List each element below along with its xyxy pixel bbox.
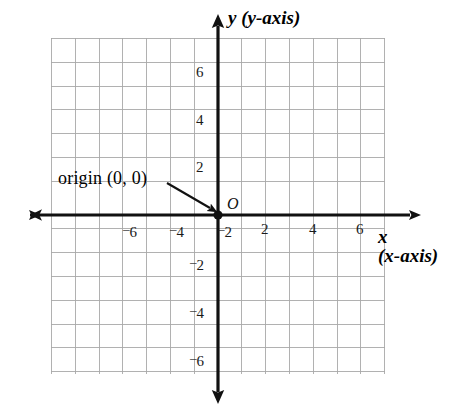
tick-value: 2 (197, 257, 205, 273)
coordinate-plane-figure: y (y-axis) x (x-axis) origin (0, 0) O –6… (0, 0, 452, 416)
origin-point-marker (213, 210, 222, 219)
x-axis-tick-xm2: –2 (218, 222, 232, 240)
y-axis (212, 14, 224, 404)
y-axis-tick-yp4: 4 (196, 113, 204, 128)
tick-value: 6 (356, 221, 364, 237)
y-axis-tick-yp6: 6 (196, 65, 204, 80)
tick-value: 6 (130, 224, 138, 240)
x-axis-tick-xm4: –4 (170, 222, 184, 240)
x-axis-symbol: x (378, 226, 388, 247)
y-axis-tick-ym6: –6 (190, 351, 204, 369)
y-axis-tick-yp2: 2 (196, 160, 204, 175)
x-axis-paren: (x-axis) (378, 246, 438, 266)
y-axis-tick-ym4: –4 (190, 303, 204, 321)
y-axis-label: y (y-axis) (228, 8, 300, 28)
tick-value: 6 (197, 353, 205, 369)
coordinate-plane-canvas (0, 0, 452, 416)
y-axis-tick-ym2: –2 (190, 255, 204, 273)
x-axis-tick-xp2: 2 (261, 222, 269, 237)
tick-value: 4 (196, 112, 204, 128)
tick-value: 4 (309, 221, 317, 237)
tick-value: 4 (177, 224, 185, 240)
y-axis-arrow-down (212, 390, 224, 404)
tick-value: 6 (196, 64, 204, 80)
tick-value: 4 (197, 305, 205, 321)
x-axis-label: x (x-axis) (378, 227, 438, 266)
x-axis-tick-xp6: 6 (356, 222, 364, 237)
y-axis-paren: (y-axis) (241, 7, 300, 28)
x-axis-tick-xm6: –6 (123, 222, 137, 240)
origin-point-label: O (227, 195, 239, 213)
origin-callout-label: origin (0, 0) (58, 168, 147, 189)
x-axis-tick-xp4: 4 (309, 222, 317, 237)
tick-value: 2 (196, 159, 204, 175)
y-axis-arrow-up (212, 14, 224, 28)
tick-value: 2 (261, 221, 269, 237)
tick-value: 2 (225, 224, 233, 240)
origin-callout-arrow (167, 183, 210, 208)
